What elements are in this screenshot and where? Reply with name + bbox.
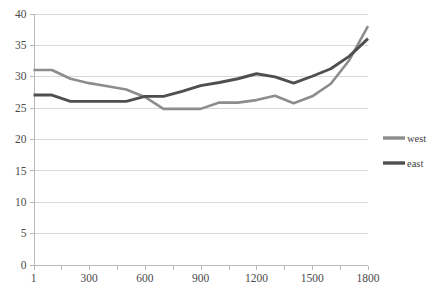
x-tick-label-1200: 1200 <box>245 272 268 284</box>
y-tick-label-5: 5 <box>21 227 27 239</box>
x-tick-label-1500: 1500 <box>301 272 324 284</box>
line-chart: 0510152025303540 1300600900120015001800 … <box>0 0 436 293</box>
chart-background <box>0 0 436 293</box>
y-tick-label-40: 40 <box>15 8 27 20</box>
x-tick-label-300: 300 <box>80 272 98 284</box>
y-tick-label-0: 0 <box>21 259 27 271</box>
y-tick-label-30: 30 <box>15 70 27 82</box>
x-tick-label-900: 900 <box>192 272 210 284</box>
y-tick-label-35: 35 <box>15 39 27 51</box>
y-tick-label-20: 20 <box>15 133 27 145</box>
chart-canvas: 0510152025303540 1300600900120015001800 … <box>0 0 436 293</box>
y-tick-label-15: 15 <box>15 165 27 177</box>
y-tick-label-10: 10 <box>15 196 27 208</box>
x-tick-label-1: 1 <box>31 272 37 284</box>
legend-label-west[interactable]: west <box>407 133 426 144</box>
x-tick-label-600: 600 <box>136 272 154 284</box>
y-tick-label-25: 25 <box>15 102 27 114</box>
x-tick-label-1800: 1800 <box>357 272 380 284</box>
legend-label-east[interactable]: east <box>407 158 423 169</box>
